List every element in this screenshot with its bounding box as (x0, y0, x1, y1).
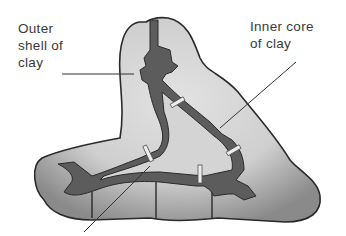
label-outer-shell: Outer shell of clay (18, 20, 98, 71)
label-inner-line1: Inner core (250, 18, 346, 35)
label-outer-line2: shell of (18, 37, 98, 54)
pin-center (198, 165, 202, 183)
label-outer-line3: clay (18, 54, 98, 71)
label-outer-line1: Outer (18, 20, 98, 37)
label-inner-line2: of clay (250, 35, 346, 52)
label-inner-core: Inner core of clay (250, 18, 346, 52)
